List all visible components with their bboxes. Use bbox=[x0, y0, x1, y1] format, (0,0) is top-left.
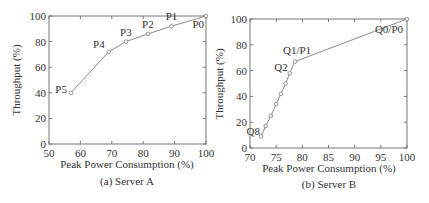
data-point-marker bbox=[124, 40, 128, 44]
x-tick-label: 100 bbox=[399, 151, 416, 163]
y-tick-label: 80 bbox=[35, 36, 47, 48]
data-point-marker bbox=[146, 32, 150, 36]
data-point-marker bbox=[284, 82, 288, 86]
data-point-marker bbox=[264, 124, 268, 128]
point-label: Q0/P0 bbox=[375, 23, 404, 35]
chart-server-b: 707580859095100020406080100 Q8Q2Q1/P1Q0/… bbox=[215, 0, 429, 203]
data-series: Q8Q2Q1/P1Q0/P0 bbox=[247, 17, 409, 138]
y-tick-label: 100 bbox=[30, 10, 47, 22]
y-tick-label: 60 bbox=[35, 61, 47, 73]
point-label: Q8 bbox=[247, 125, 261, 137]
data-point-marker bbox=[293, 60, 297, 64]
data-point-marker bbox=[274, 102, 278, 106]
point-label: Q2 bbox=[274, 61, 287, 73]
point-label: P2 bbox=[142, 18, 154, 30]
y-tick-label: 40 bbox=[236, 90, 248, 102]
x-tick-label: 100 bbox=[198, 147, 215, 159]
chart-server-a: 5060708090100020406080100 P5P4P3P2P1P0 P… bbox=[0, 0, 215, 203]
chart-caption: (a) Server A bbox=[100, 175, 154, 188]
y-tick-label: 100 bbox=[231, 13, 248, 25]
point-label: P4 bbox=[93, 38, 105, 50]
point-label: P0 bbox=[192, 18, 204, 30]
data-point-marker bbox=[170, 24, 174, 28]
point-label: P3 bbox=[120, 26, 132, 38]
data-point-marker bbox=[288, 71, 292, 75]
x-axis-label: Peak Power Consumption (%) bbox=[60, 158, 194, 171]
data-point-marker bbox=[405, 17, 409, 21]
y-tick-label: 0 bbox=[242, 142, 248, 154]
data-point-marker bbox=[269, 114, 273, 118]
point-label: Q1/P1 bbox=[283, 44, 311, 56]
axis-ticks: 707580859095100020406080100 bbox=[231, 13, 416, 163]
plot-frame bbox=[250, 19, 407, 148]
y-axis-label: Throughput (%) bbox=[215, 48, 226, 120]
data-point-marker bbox=[69, 91, 73, 95]
point-label: P1 bbox=[166, 10, 178, 22]
y-tick-label: 80 bbox=[236, 39, 248, 51]
chart-caption: (b) Server B bbox=[302, 178, 356, 191]
data-series: P5P4P3P2P1P0 bbox=[55, 10, 207, 95]
data-point-marker bbox=[279, 92, 283, 96]
y-axis-label: Throughput (%) bbox=[10, 44, 23, 116]
y-tick-label: 20 bbox=[35, 112, 47, 124]
y-tick-label: 40 bbox=[35, 87, 47, 99]
y-tick-label: 0 bbox=[41, 138, 47, 150]
point-label: P5 bbox=[55, 83, 67, 95]
x-axis-label: Peak Power Consumption (%) bbox=[262, 162, 396, 175]
data-point-marker bbox=[107, 50, 111, 54]
data-point-marker bbox=[204, 14, 208, 18]
y-tick-label: 60 bbox=[236, 65, 248, 77]
